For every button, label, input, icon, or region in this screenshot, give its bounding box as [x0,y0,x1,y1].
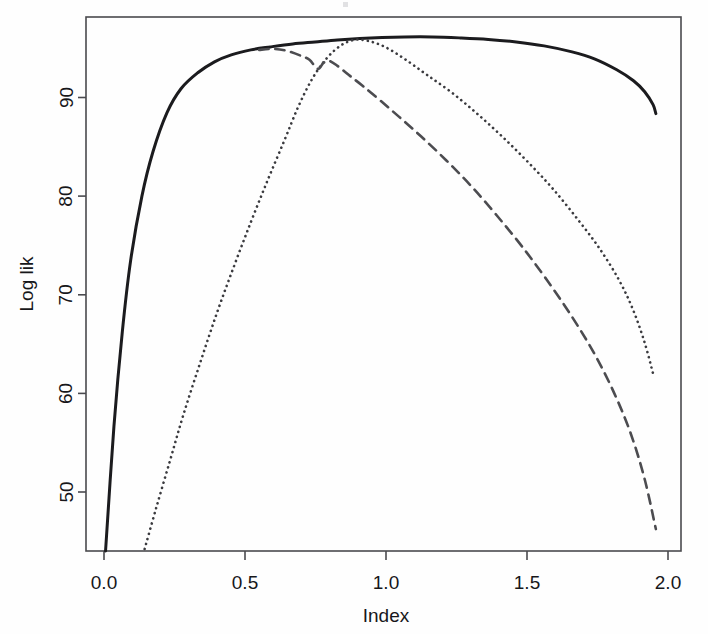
x-axis-ticks [104,551,668,560]
scan-speck-artifact [343,2,348,7]
x-axis-title: Index [363,605,410,626]
y-axis-ticks [78,98,86,493]
x-tick-label-2-0: 2.0 [655,572,681,593]
x-axis-tick-labels: 0.0 0.5 1.0 1.5 2.0 [91,572,681,593]
x-tick-label-1-0: 1.0 [373,572,399,593]
x-tick-label-0-5: 0.5 [232,572,258,593]
y-tick-label-90: 90 [56,87,77,108]
y-tick-label-60: 60 [56,383,77,404]
series-dashed-curve [259,49,656,529]
x-tick-label-0-0: 0.0 [91,572,117,593]
series-layer [106,37,656,551]
y-tick-label-70: 70 [56,284,77,305]
y-tick-label-50: 50 [56,481,77,502]
log-likelihood-line-chart: 90 80 70 60 50 Log lik 0.0 0.5 1.0 1.5 2… [0,0,708,634]
chart-page: 90 80 70 60 50 Log lik 0.0 0.5 1.0 1.5 2… [0,0,708,634]
series-solid-curve [106,37,656,551]
y-axis-tick-labels: 90 80 70 60 50 [56,87,77,503]
y-axis-title: Log lik [16,256,37,311]
y-tick-label-80: 80 [56,186,77,207]
x-tick-label-1-5: 1.5 [514,572,540,593]
